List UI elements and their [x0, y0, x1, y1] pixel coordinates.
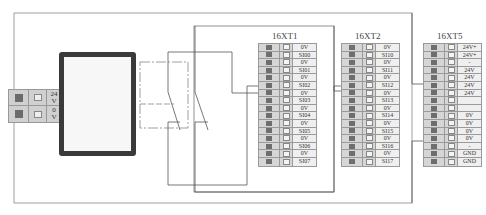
terminal-label: 0V — [293, 59, 316, 66]
terminal-label: 0V — [458, 128, 481, 135]
terminal-screw-icon — [349, 60, 355, 65]
terminal-slot-icon — [34, 111, 42, 118]
terminal-slot-icon — [283, 82, 290, 88]
terminal-slot-icon — [448, 97, 455, 103]
terminal-label: 24V — [458, 82, 481, 89]
terminal-label: 24V — [458, 74, 481, 81]
terminal-screw-icon — [431, 121, 437, 126]
terminal-label: SI02 — [293, 82, 316, 89]
terminal-row: SI07 — [259, 158, 316, 166]
terminal-slot-icon — [448, 151, 455, 157]
terminal-slot-icon — [366, 90, 373, 96]
terminal-row: GND — [424, 150, 481, 158]
terminal-slot-icon — [448, 113, 455, 119]
terminal-label: 0V — [376, 105, 399, 112]
terminal-row: 0V — [259, 90, 316, 98]
terminal-slot-icon — [448, 143, 455, 149]
terminal-slot-icon — [366, 82, 373, 88]
terminal-label: 0V — [293, 44, 316, 51]
terminal-slot-icon — [366, 59, 373, 65]
terminal-row: 0V — [342, 44, 399, 52]
terminal-slot-icon — [366, 67, 373, 73]
terminal-label: 0V — [458, 112, 481, 119]
terminal-screw-icon — [349, 75, 355, 80]
block-title-16xt1: 16XT1 — [272, 31, 298, 41]
terminal-row: SI16 — [342, 143, 399, 151]
terminal-screw-icon — [266, 52, 272, 57]
terminal-label: 0V — [293, 74, 316, 81]
terminal-label: SI15 — [376, 128, 399, 135]
terminal-slot-icon — [283, 59, 290, 65]
terminal-row: 0V — [342, 90, 399, 98]
terminal-screw-icon — [266, 60, 272, 65]
block-title-16xt5: 16XT5 — [437, 31, 463, 41]
terminal-screw-icon — [266, 151, 272, 156]
terminal-row: 0V — [259, 74, 316, 82]
terminal-row: 0V — [259, 135, 316, 143]
terminal-label: SI11 — [376, 67, 399, 74]
terminal-label: SI01 — [293, 67, 316, 74]
terminal-label: SI05 — [293, 128, 316, 135]
terminal-label: 24V+ — [458, 52, 481, 59]
terminal-screw-icon — [349, 52, 355, 57]
terminal-slot-icon — [283, 143, 290, 149]
terminal-label: SI03 — [293, 97, 316, 104]
terminal-label: 0V — [293, 135, 316, 142]
terminal-screw-icon — [349, 136, 355, 141]
terminal-screw-icon — [431, 113, 437, 118]
terminal-row — [424, 97, 481, 105]
power-supply-unit — [59, 52, 136, 156]
terminal-screw-icon — [266, 106, 272, 111]
terminal-slot-icon — [283, 90, 290, 96]
terminal-label: 0V — [376, 150, 399, 157]
terminal-row: SI15 — [342, 128, 399, 136]
terminal-label: SI04 — [293, 112, 316, 119]
terminal-row: 0V — [259, 150, 316, 158]
terminal-label: SI14 — [376, 112, 399, 119]
terminal-slot-icon — [448, 90, 455, 96]
terminal-row: SI03 — [259, 97, 316, 105]
terminal-screw-icon — [349, 45, 355, 50]
terminal-label: - — [458, 143, 481, 150]
terminal-slot-icon — [283, 105, 290, 111]
terminal-slot-icon — [283, 159, 290, 165]
terminal-row: SI17 — [342, 158, 399, 166]
terminal-screw-icon — [431, 136, 437, 141]
terminal-row — [424, 105, 481, 113]
terminal-row: 0V — [259, 44, 316, 52]
terminal-slot-icon — [448, 128, 455, 134]
terminal-screw-icon — [431, 98, 437, 103]
terminal-row: SI05 — [259, 128, 316, 136]
terminal-screw-icon — [431, 52, 437, 57]
terminal-label: 0V — [458, 120, 481, 127]
terminal-label: 0V — [293, 150, 316, 157]
terminal-screw-icon — [349, 113, 355, 118]
terminal-screw-icon — [349, 128, 355, 133]
terminal-screw-icon — [266, 144, 272, 149]
terminal-block-16xt1: 0VSI000VSI010VSI020VSI030VSI040VSI050VSI… — [258, 43, 317, 167]
terminal-label: 24V — [458, 67, 481, 74]
terminal-block-16xt5: 24V+24V+-24V24V24V24V0V0V0V0V-GNDGND — [423, 43, 482, 167]
terminal-label: 0V — [376, 59, 399, 66]
terminal-row: - — [424, 143, 481, 151]
terminal-slot-icon — [283, 75, 290, 81]
terminal-label: - — [458, 59, 481, 66]
terminal-label: SI13 — [376, 97, 399, 104]
terminal-screw-icon — [15, 110, 23, 118]
block-title-16xt2: 16XT2 — [355, 31, 381, 41]
terminal-label: SI00 — [293, 52, 316, 59]
terminal-slot-icon — [448, 59, 455, 65]
terminal-row: SI01 — [259, 67, 316, 75]
terminal-label: 0V — [376, 74, 399, 81]
terminal-label: 0V — [376, 44, 399, 51]
switch-blade-2 — [195, 92, 208, 130]
switch-housing — [140, 62, 188, 128]
terminal-slot-icon — [448, 159, 455, 165]
terminal-slot-icon — [283, 67, 290, 73]
terminal-row: 0V — [424, 128, 481, 136]
terminal-label: 0V — [376, 120, 399, 127]
terminal-row: 0V — [424, 112, 481, 120]
terminal-slot-icon — [366, 52, 373, 58]
terminal-screw-icon — [431, 75, 437, 80]
terminal-screw-icon — [349, 83, 355, 88]
